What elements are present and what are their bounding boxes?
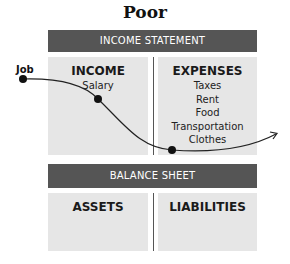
- expenses-dot-icon: [168, 146, 176, 154]
- cash-flow-arrow: [0, 0, 290, 264]
- job-dot-icon: [19, 75, 27, 83]
- salary-dot-icon: [94, 95, 102, 103]
